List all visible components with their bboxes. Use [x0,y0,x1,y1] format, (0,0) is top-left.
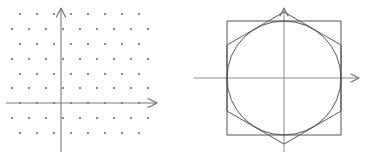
lattice-point [147,28,149,30]
lattice-point [121,132,123,134]
lattice-point [62,58,64,60]
lattice-point [53,73,55,75]
lattice-point [70,132,72,134]
lattice-point [96,87,98,89]
lattice-point [53,43,55,45]
lattice-point [36,73,38,75]
lattice-point [87,132,89,134]
lattice-point [104,132,106,134]
lattice-point [87,13,89,15]
lattice-point [45,58,47,60]
lattice-point [104,13,106,15]
lattice-point [11,117,13,119]
lattice-point [79,28,81,30]
lattice-point [19,43,21,45]
panel-inscribed-shapes-diagram [186,0,373,157]
lattice-point [138,132,140,134]
lattice-point [19,73,21,75]
lattice-point [36,43,38,45]
lattice-point [121,43,123,45]
lattice-point [11,58,13,60]
figure-root [0,0,373,157]
lattice-point [11,28,13,30]
lattice-point [62,117,64,119]
lattice-point [138,13,140,15]
lattice-point [70,13,72,15]
lattice-point [130,117,132,119]
lattice-point [62,87,64,89]
lattice-point [87,73,89,75]
lattice-point [45,87,47,89]
lattice-dot-group [11,13,149,134]
lattice-point [28,28,30,30]
lattice-point [45,28,47,30]
lattice-point [62,28,64,30]
lattice-point [79,58,81,60]
lattice-point [36,132,38,134]
lattice-point [19,132,21,134]
panel-lattice-diagram [0,0,187,157]
lattice-point [138,73,140,75]
lattice-point [104,43,106,45]
lattice-point [147,117,149,119]
lattice-point [113,87,115,89]
lattice-point [121,13,123,15]
lattice-point [113,28,115,30]
lattice-point [96,117,98,119]
lattice-point [104,73,106,75]
lattice-point [70,73,72,75]
lattice-point [79,87,81,89]
lattice-point [53,132,55,134]
lattice-point [36,13,38,15]
lattice-point [45,117,47,119]
lattice-point [113,58,115,60]
lattice-point [28,58,30,60]
lattice-point [96,58,98,60]
lattice-point [147,58,149,60]
lattice-point [138,43,140,45]
lattice-point [130,87,132,89]
lattice-point [53,13,55,15]
inscribed-axes-group [194,8,359,152]
lattice-point [130,28,132,30]
lattice-point [147,87,149,89]
inscribed-shapes-svg-canvas [186,0,373,157]
lattice-point [130,58,132,60]
lattice-point [113,117,115,119]
lattice-point [121,73,123,75]
lattice-point [87,43,89,45]
lattice-point [96,28,98,30]
lattice-point [70,43,72,45]
lattice-svg-canvas [0,0,187,157]
lattice-point [19,13,21,15]
lattice-point [79,117,81,119]
lattice-point [28,87,30,89]
lattice-point [28,117,30,119]
lattice-point [11,87,13,89]
